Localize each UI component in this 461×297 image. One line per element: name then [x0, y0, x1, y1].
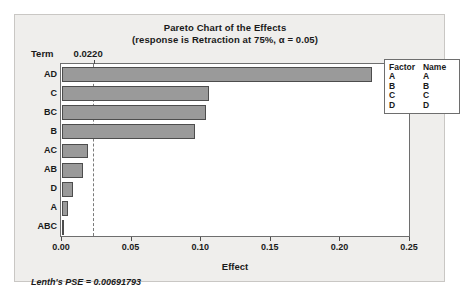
bar-ad	[62, 67, 372, 82]
y-tick-label-bc: BC	[44, 107, 57, 117]
legend-row: AA	[389, 72, 454, 82]
legend-row: CC	[389, 91, 454, 101]
bar-a	[62, 201, 68, 216]
legend-header-row: Factor Name	[389, 62, 454, 72]
plot-area	[60, 63, 410, 237]
x-tick-label-0: 0.00	[52, 242, 70, 252]
x-tick-label-2: 0.10	[191, 242, 209, 252]
x-axis-title: Effect	[60, 261, 410, 272]
reference-tick	[94, 60, 95, 64]
chart-panel: Pareto Chart of the Effects (response is…	[14, 14, 445, 282]
bar-bc	[62, 105, 206, 120]
legend-row: BB	[389, 82, 454, 92]
y-tick-label-ac: AC	[44, 145, 57, 155]
y-tick-label-ab: AB	[44, 164, 57, 174]
bar-d	[62, 182, 73, 197]
legend-factor: D	[389, 101, 423, 111]
y-tick-label-d: D	[51, 183, 58, 193]
legend-name: D	[423, 101, 454, 111]
bar-ac	[62, 144, 88, 159]
chart-subtitle: (response is Retraction at 75%, α = 0.05…	[65, 34, 385, 45]
bar-c	[62, 86, 209, 101]
legend-row: DD	[389, 101, 454, 111]
y-tick-label-ad: AD	[44, 69, 57, 79]
bar-abc	[62, 220, 64, 235]
factor-legend: Factor Name AABBCCDD	[384, 59, 460, 114]
y-tick-label-abc: ABC	[38, 221, 58, 231]
x-tick-3	[270, 237, 271, 241]
x-tick-label-1: 0.05	[122, 242, 140, 252]
y-axis: ADCBCBACABDAABC	[15, 63, 57, 237]
x-tick-label-4: 0.20	[331, 242, 349, 252]
y-tick-label-c: C	[51, 88, 58, 98]
x-tick-label-5: 0.25	[400, 242, 418, 252]
bar-b	[62, 124, 195, 139]
x-tick-1	[131, 237, 132, 241]
y-tick-label-a: A	[51, 202, 58, 212]
y-tick-label-b: B	[51, 126, 58, 136]
y-axis-title: Term	[31, 48, 54, 59]
legend-table: Factor Name AABBCCDD	[389, 62, 454, 110]
reference-line-label: 0.0220	[74, 48, 103, 59]
chart-title: Pareto Chart of the Effects	[75, 22, 375, 33]
x-tick-4	[339, 237, 340, 241]
x-tick-label-3: 0.15	[261, 242, 279, 252]
bar-ab	[62, 163, 83, 178]
footnote: Lenth's PSE = 0.00691793	[31, 277, 141, 287]
x-tick-5	[409, 237, 410, 241]
x-tick-2	[200, 237, 201, 241]
legend-body: AABBCCDD	[389, 72, 454, 110]
x-tick-0	[61, 237, 62, 241]
